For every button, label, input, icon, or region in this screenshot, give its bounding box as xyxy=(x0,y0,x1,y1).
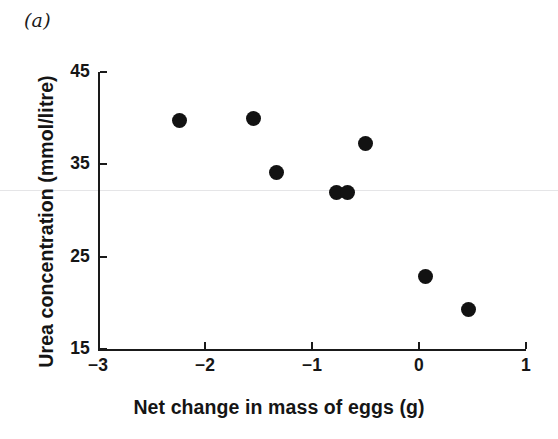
figure-panel-a: (a) 15253545 −3−2−101 Net change in mass… xyxy=(0,0,558,439)
x-axis-line xyxy=(98,349,526,351)
x-tick-mark xyxy=(525,342,527,349)
data-point xyxy=(418,269,433,284)
y-tick-mark xyxy=(100,71,107,73)
panel-label: (a) xyxy=(24,9,51,31)
x-tick-label: −1 xyxy=(290,355,334,376)
x-tick-label: −3 xyxy=(76,355,120,376)
x-tick-mark xyxy=(204,342,206,349)
y-tick-mark xyxy=(100,163,107,165)
x-tick-mark xyxy=(311,342,313,349)
x-tick-label: −2 xyxy=(183,355,227,376)
y-tick-mark xyxy=(100,348,107,350)
y-tick-mark xyxy=(100,256,107,258)
data-point xyxy=(246,111,261,126)
x-axis-title: Net change in mass of eggs (g) xyxy=(0,396,558,419)
data-point xyxy=(461,302,476,317)
x-tick-label: 0 xyxy=(397,355,441,376)
data-point xyxy=(358,136,373,151)
y-axis-title: Urea concentration (mmol/litre) xyxy=(35,72,58,372)
x-tick-mark xyxy=(418,342,420,349)
x-tick-label: 1 xyxy=(504,355,548,376)
